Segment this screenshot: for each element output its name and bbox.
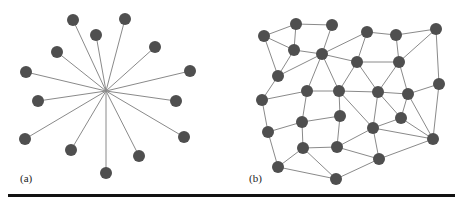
mesh-node	[430, 23, 442, 35]
mesh-node	[316, 48, 328, 60]
mesh-node	[395, 112, 407, 124]
figure: (a) (b)	[0, 0, 465, 198]
mesh-node	[373, 153, 385, 165]
star-node	[19, 133, 31, 145]
mesh-edge	[337, 128, 373, 147]
mesh-node	[361, 26, 373, 38]
star-node	[184, 65, 196, 77]
mesh-node	[390, 29, 402, 41]
star-node	[149, 41, 161, 53]
mesh-edge	[436, 29, 439, 84]
mesh-edge	[433, 84, 439, 139]
star-node	[20, 66, 32, 78]
mesh-edge	[322, 54, 339, 91]
star-node	[32, 95, 44, 107]
star-node	[51, 46, 63, 58]
star-node	[178, 131, 190, 143]
mesh-node	[272, 161, 284, 173]
mesh-node	[334, 110, 346, 122]
mesh-node	[301, 85, 313, 97]
mesh-node	[367, 122, 379, 134]
panel-a-label: (a)	[20, 172, 33, 185]
star-edge	[106, 47, 155, 91]
star-edge	[71, 91, 106, 150]
mesh-edge	[337, 147, 379, 159]
star-edge	[96, 35, 106, 91]
mesh-node	[351, 56, 363, 68]
mesh-edge	[262, 91, 307, 100]
mesh-edge	[336, 159, 379, 179]
star-node	[90, 29, 102, 41]
star-node	[67, 14, 79, 26]
star-edge	[106, 71, 190, 91]
mesh-node	[427, 133, 439, 145]
mesh-edge	[339, 91, 373, 128]
mesh-node	[372, 86, 384, 98]
panel-a-star-graph	[19, 13, 196, 179]
mesh-node	[296, 116, 308, 128]
star-node	[65, 144, 77, 156]
mesh-node	[262, 126, 274, 138]
star-node	[170, 95, 182, 107]
mesh-edge	[303, 148, 336, 179]
mesh-edge	[408, 94, 433, 139]
mesh-node	[433, 78, 445, 90]
mesh-node	[258, 30, 270, 42]
star-edge	[38, 91, 106, 101]
bottom-rule	[8, 194, 455, 197]
star-node	[100, 167, 112, 179]
star-edge	[73, 20, 106, 91]
mesh-edge	[278, 167, 336, 179]
panel-b-label: (b)	[249, 172, 262, 185]
mesh-node	[333, 85, 345, 97]
mesh-node	[290, 18, 302, 30]
mesh-node	[326, 19, 338, 31]
panel-b-mesh-graph	[256, 18, 445, 185]
mesh-node	[331, 141, 343, 153]
mesh-node	[272, 70, 284, 82]
mesh-node	[288, 44, 300, 56]
mesh-edge	[379, 139, 433, 159]
star-node	[133, 150, 145, 162]
star-edge	[106, 91, 176, 101]
star-edge	[106, 19, 125, 91]
mesh-node	[330, 173, 342, 185]
star-node	[119, 13, 131, 25]
mesh-node	[297, 142, 309, 154]
mesh-node	[256, 94, 268, 106]
mesh-node	[393, 56, 405, 68]
mesh-node	[402, 88, 414, 100]
